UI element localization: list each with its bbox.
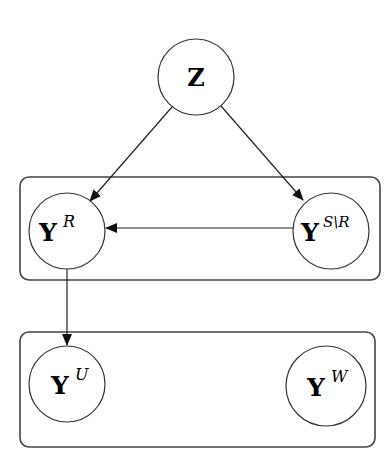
node-y-u: Y U [29, 346, 105, 422]
node-z-label: Z [187, 63, 205, 92]
node-y-s-minus-r-sup: S\R [323, 213, 350, 231]
node-y-s-minus-r: Y S\R [293, 193, 369, 269]
node-y-w-sup: W [331, 367, 349, 386]
node-y-u-base: Y [50, 371, 70, 400]
node-y-s-minus-r-base: Y [300, 218, 320, 247]
node-y-r: Y R [29, 193, 105, 269]
node-y-u-sup: U [75, 365, 89, 384]
edge-z-to-ysr [221, 106, 303, 200]
node-y-r-base: Y [38, 218, 58, 247]
node-y-r-sup: R [62, 212, 75, 231]
node-z: Z [158, 39, 234, 115]
edge-z-to-yr [90, 107, 172, 201]
node-y-w-base: Y [306, 373, 326, 402]
diagram-canvas: Z Y R Y S\R Y U Y W [0, 0, 388, 467]
node-y-w: Y W [286, 346, 366, 426]
